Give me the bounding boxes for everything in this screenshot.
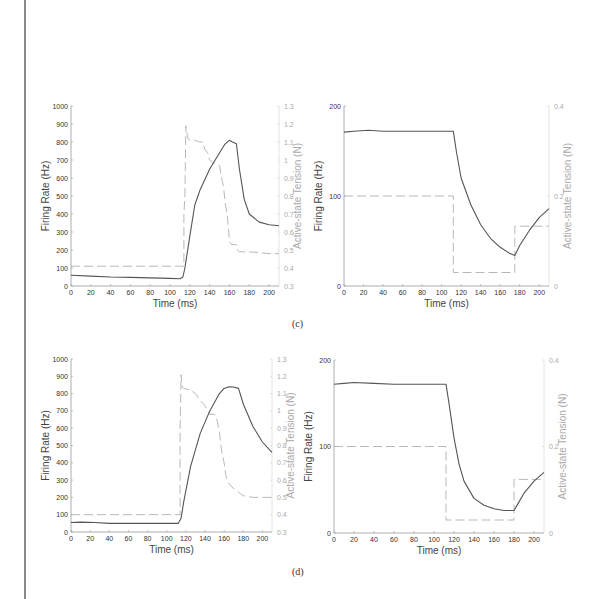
y-axis-label: Firing Rate (Hz) <box>303 411 314 482</box>
x-tick-label: 180 <box>508 536 520 543</box>
tension-series-line <box>334 447 544 521</box>
right-y-tick-label: 0.4 <box>554 103 564 110</box>
x-tick-label: 160 <box>488 536 500 543</box>
y-axis-label: Firing Rate (Hz) <box>40 161 51 232</box>
y-tick-label: 0 <box>327 530 331 537</box>
y-tick-label: 500 <box>56 193 68 200</box>
right-y-tick-label: 0 <box>554 283 558 290</box>
y-tick-label: 400 <box>56 211 68 218</box>
right-y-axis-label: Active-state Tension (N) <box>562 143 573 249</box>
right-y-tick-label: 0.4 <box>549 357 559 364</box>
caption-c: (c) <box>292 318 303 329</box>
right-y-tick-label: 1 <box>277 407 281 414</box>
right-y-tick-label: 0.3 <box>284 283 294 290</box>
y-tick-label: 1000 <box>52 103 68 110</box>
y-tick-label: 300 <box>56 477 68 484</box>
right-y-tick-label: 1.2 <box>284 121 294 128</box>
y-tick-label: 100 <box>319 443 331 450</box>
y-tick-label: 0 <box>64 283 68 290</box>
right-y-tick-label: 0.3 <box>277 529 287 536</box>
y-tick-label: 0 <box>337 283 341 290</box>
y-tick-label: 1000 <box>52 356 68 363</box>
right-y-tick-label: 1.2 <box>277 373 287 380</box>
y-tick-label: 500 <box>56 442 68 449</box>
x-tick-label: 20 <box>360 289 368 296</box>
x-tick-label: 140 <box>204 289 216 296</box>
y-tick-label: 400 <box>56 459 68 466</box>
right-y-tick-label: 1.3 <box>277 356 287 363</box>
x-tick-label: 0 <box>342 289 346 296</box>
x-tick-label: 0 <box>69 535 73 542</box>
x-tick-label: 80 <box>410 536 418 543</box>
chart-c-firing-rate-tension-right: 020406080100120140160180200010020000.20.… <box>313 103 573 310</box>
right-y-axis-label: Active-state Tension (N) <box>292 143 303 249</box>
firing-rate-series-line <box>71 140 279 279</box>
x-tick-label: 60 <box>125 535 133 542</box>
x-tick-label: 180 <box>237 535 249 542</box>
x-axis-label: Time (ms) <box>417 545 462 556</box>
right-y-tick-label: 1 <box>284 157 288 164</box>
x-tick-label: 180 <box>514 289 526 296</box>
chart-d-firing-rate-tension-left: 0204060801001201401601802000100200300400… <box>40 356 296 556</box>
x-tick-label: 120 <box>184 289 196 296</box>
x-tick-label: 0 <box>332 536 336 543</box>
chart-c-firing-rate-tension-left: 0204060801001201401601802000100200300400… <box>40 103 303 310</box>
right-y-axis-label: Active-state Tension (N) <box>557 394 568 500</box>
x-axis-label: Time (ms) <box>149 544 194 555</box>
x-tick-label: 20 <box>86 535 94 542</box>
y-tick-label: 200 <box>329 103 341 110</box>
x-tick-label: 140 <box>199 535 211 542</box>
x-tick-label: 20 <box>350 536 358 543</box>
x-tick-label: 40 <box>107 289 115 296</box>
x-tick-label: 200 <box>257 535 269 542</box>
tension-series-line <box>71 375 272 515</box>
y-tick-label: 600 <box>56 425 68 432</box>
x-tick-label: 100 <box>428 536 440 543</box>
y-tick-label: 200 <box>319 357 331 364</box>
y-tick-label: 600 <box>56 175 68 182</box>
tension-series-line <box>71 126 279 266</box>
y-tick-label: 900 <box>56 121 68 128</box>
x-tick-label: 60 <box>399 289 407 296</box>
right-y-tick-label: 0 <box>549 530 553 537</box>
x-tick-label: 100 <box>436 289 448 296</box>
x-tick-label: 140 <box>475 289 487 296</box>
y-tick-label: 200 <box>56 494 68 501</box>
y-tick-label: 100 <box>56 265 68 272</box>
x-tick-label: 20 <box>87 289 95 296</box>
right-y-tick-label: 1.3 <box>284 103 294 110</box>
right-y-tick-label: 0.4 <box>284 265 294 272</box>
x-tick-label: 200 <box>533 289 545 296</box>
firing-rate-series-line <box>344 130 549 255</box>
chart-d-firing-rate-tension-right: 020406080100120140160180200010020000.20.… <box>303 357 568 557</box>
right-y-axis-label: Active-state Tension (N) <box>285 393 296 499</box>
y-tick-label: 800 <box>56 390 68 397</box>
figure-canvas: 0204060801001201401601802000100200300400… <box>0 0 597 599</box>
x-tick-label: 40 <box>105 535 113 542</box>
y-axis-label: Firing Rate (Hz) <box>40 410 51 481</box>
y-tick-label: 100 <box>56 511 68 518</box>
x-tick-label: 60 <box>127 289 135 296</box>
x-tick-label: 120 <box>448 536 460 543</box>
y-tick-label: 300 <box>56 229 68 236</box>
x-tick-label: 40 <box>379 289 387 296</box>
y-tick-label: 900 <box>56 373 68 380</box>
x-tick-label: 200 <box>263 289 275 296</box>
x-tick-label: 80 <box>146 289 154 296</box>
x-axis-label: Time (ms) <box>424 298 469 309</box>
right-y-tick-label: 0.4 <box>277 511 287 518</box>
x-tick-label: 0 <box>69 289 73 296</box>
x-tick-label: 100 <box>161 535 173 542</box>
x-tick-label: 180 <box>243 289 255 296</box>
x-tick-label: 40 <box>370 536 378 543</box>
y-tick-label: 700 <box>56 407 68 414</box>
x-tick-label: 140 <box>468 536 480 543</box>
x-tick-label: 160 <box>224 289 236 296</box>
y-axis-label: Firing Rate (Hz) <box>313 161 324 232</box>
caption-d: (d) <box>292 566 304 577</box>
y-tick-label: 100 <box>329 193 341 200</box>
y-tick-label: 0 <box>64 529 68 536</box>
x-tick-label: 80 <box>418 289 426 296</box>
y-tick-label: 200 <box>56 247 68 254</box>
y-tick-label: 800 <box>56 139 68 146</box>
